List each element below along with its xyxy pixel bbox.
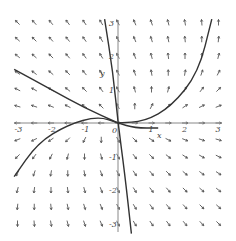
y-tick-label: 2 (108, 52, 114, 61)
y-axis-label: y (99, 69, 105, 78)
right-upper-curve (118, 19, 212, 123)
x-tick-label: -1 (82, 125, 90, 134)
y-tick-label: -1 (109, 153, 117, 162)
y-tick-label: -2 (109, 186, 117, 195)
x-tick-label: -2 (48, 125, 56, 134)
origin-label: 0 (112, 126, 117, 135)
y-tick-label: 3 (109, 19, 114, 28)
x-tick-label: -3 (15, 125, 23, 134)
y-tick-label: -3 (109, 220, 117, 229)
y-tick-label: 1 (109, 86, 114, 95)
x-tick-label: 2 (181, 125, 187, 134)
x-tick-label: 1 (149, 125, 154, 134)
direction-field-plot: -3-2-1123321-1-2-3 x y 0 (0, 0, 236, 241)
x-axis-label: x (157, 131, 162, 140)
x-tick-label: 3 (216, 125, 221, 134)
